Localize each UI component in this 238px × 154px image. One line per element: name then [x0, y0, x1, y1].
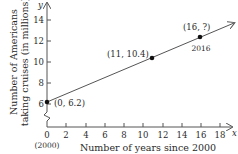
x-ticks	[66, 123, 220, 127]
svg-text:0: 0	[44, 130, 49, 140]
x-axis-symbol: x	[232, 128, 237, 138]
svg-text:6: 6	[102, 130, 107, 140]
svg-text:12: 12	[158, 130, 169, 140]
x-origin-note: (2000)	[35, 141, 60, 150]
svg-text:18: 18	[215, 130, 226, 140]
svg-text:10: 10	[138, 130, 149, 140]
point-sublabel-2016: 2016	[191, 44, 210, 53]
point-label-11: (11, 10.4)	[107, 49, 149, 59]
svg-text:6: 6	[39, 99, 44, 109]
svg-text:16: 16	[196, 130, 207, 140]
y-axis-symbol: y	[37, 0, 43, 10]
point-label-16: (16, ?)	[183, 22, 210, 32]
svg-text:14: 14	[177, 130, 188, 140]
svg-text:2: 2	[63, 130, 68, 140]
point-label-0: (0, 6.2)	[54, 98, 85, 108]
x-tick-labels: 0 2 4 6 8 10 12 14 16 18	[44, 130, 225, 140]
data-point-0	[45, 100, 50, 105]
trend-line	[47, 23, 234, 102]
x-axis-label: Number of years since 2000	[80, 142, 216, 153]
svg-text:4: 4	[83, 130, 88, 140]
data-point-16	[198, 35, 203, 40]
svg-text:10: 10	[33, 57, 44, 67]
svg-text:8: 8	[121, 130, 126, 140]
svg-text:8: 8	[39, 78, 44, 88]
y-ticks	[47, 20, 51, 104]
y-axis-break	[44, 112, 50, 127]
chart-plot: y x 14 12 10 8 6 0 2 4 6 8 10 12 14 16	[0, 0, 238, 154]
y-tick-labels: 14 12 10 8 6	[33, 15, 44, 109]
svg-text:12: 12	[33, 36, 44, 46]
data-point-11	[150, 56, 155, 61]
svg-text:14: 14	[33, 15, 44, 25]
